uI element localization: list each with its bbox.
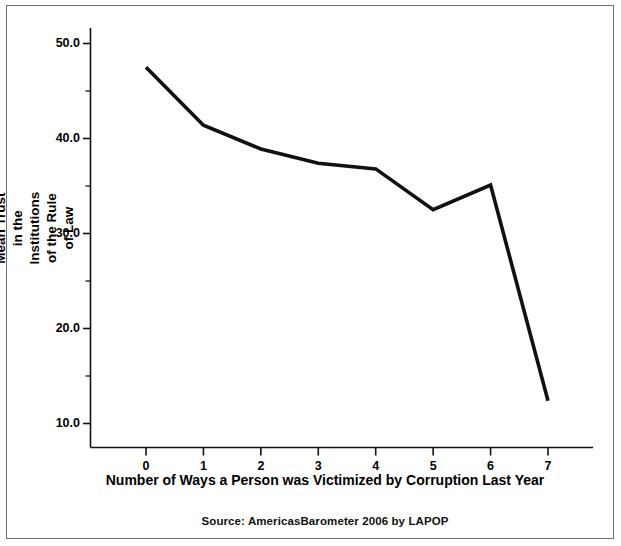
chart-figure: 50.040.030.020.010.0 01234567 Mean Trust… [0, 0, 621, 546]
y-tick-label: 20.0 [56, 321, 80, 335]
x-tick-label: 3 [315, 459, 322, 473]
x-axis-ticks [146, 448, 548, 456]
chart-axes [91, 28, 594, 448]
y-tick-label: 10.0 [56, 416, 80, 430]
y-axis-label-container: Mean Trust in the Institutions of the Ru… [12, 18, 58, 438]
x-tick-label: 4 [372, 459, 379, 473]
x-tick-label: 6 [487, 459, 494, 473]
line-chart-plot: 50.040.030.020.010.0 01234567 [0, 0, 621, 546]
x-tick-label: 2 [257, 459, 264, 473]
y-tick-label: 50.0 [56, 36, 80, 50]
y-axis-label: Mean Trust in the Institutions of the Ru… [0, 192, 77, 265]
source-note: Source: AmericasBarometer 2006 by LAPOP [90, 515, 560, 527]
x-tick-label: 5 [430, 459, 437, 473]
x-tick-label: 7 [545, 459, 552, 473]
x-axis-label: Number of Ways a Person was Victimized b… [90, 472, 560, 489]
data-series-line [146, 67, 548, 400]
x-tick-label: 0 [143, 459, 150, 473]
x-tick-label: 1 [200, 459, 207, 473]
x-axis-tick-labels: 01234567 [143, 459, 552, 473]
y-axis-ticks [83, 44, 91, 424]
y-tick-label: 40.0 [56, 131, 80, 145]
